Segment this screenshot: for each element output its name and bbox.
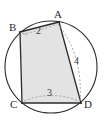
measure-label-ad: 4 [74, 56, 79, 66]
vertex-point-A [58, 21, 60, 23]
vertex-label-A: A [54, 9, 62, 20]
vertex-label-B: B [9, 22, 16, 33]
measure-label-cd: 3 [47, 88, 52, 98]
vertex-label-C: C [10, 99, 17, 110]
geometry-figure: A B C D 2 4 3 [0, 0, 107, 131]
vertex-label-D: D [84, 99, 92, 110]
measure-label-ba: 2 [36, 26, 41, 36]
vertex-point-B [19, 31, 21, 33]
vertex-point-D [80, 102, 82, 104]
vertex-point-C [21, 102, 23, 104]
